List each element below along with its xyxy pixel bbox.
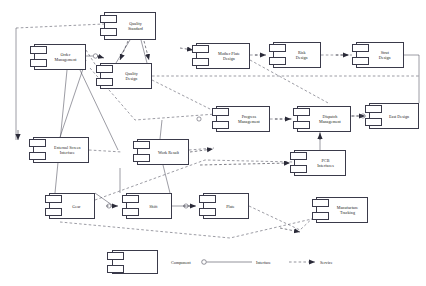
component-label: Shift [140,204,171,209]
component-tabs-icon [199,195,216,217]
component-tabs-icon [352,44,369,66]
component-tabs-icon [29,139,46,161]
component-dispatch-management[interactable]: DispatchManagement [297,106,351,132]
component-label: East Design [384,114,418,119]
component-gear[interactable]: Gear [49,193,95,219]
legend-service-label: Service [320,260,333,265]
component-tabs-icon [312,199,329,221]
component-tabs-icon [122,195,139,217]
component-tabs-icon [133,141,150,163]
component-tabs-icon [269,44,286,66]
component-tabs-icon [100,15,117,37]
component-plate[interactable]: Plate [203,193,249,219]
component-label: Mother PlateDesign [213,51,249,61]
component-tabs-icon [365,105,382,127]
component-label: RiskDesign [287,50,320,60]
component-external-screen[interactable]: External ScreenInterface [33,137,89,163]
component-label: DispatchManagement [314,114,350,124]
component-work-result[interactable]: Work Result [137,139,189,165]
component-label: QualityDesign [116,71,151,81]
component-label: Plate [217,204,248,209]
component-label: OrderManagement [50,52,85,62]
component-tabs-icon [30,46,47,68]
component-east-design[interactable]: East Design [369,103,419,129]
component-tabs-icon [212,108,229,130]
component-manufacture-tracking[interactable]: ManufactureTracking [316,197,368,223]
component-quality-design[interactable]: QualityDesign [100,63,152,89]
legend-component-tabs [107,252,124,274]
component-label: ProgressManagement [233,114,269,124]
component-tabs-icon [45,195,62,217]
component-label: Work Result [153,150,188,155]
component-mother-plate-design[interactable]: Mother PlateDesign [196,43,250,69]
component-tabs-icon [290,152,307,174]
component-progress-management[interactable]: ProgressManagement [216,106,270,132]
legend-component-label: Component [171,260,191,265]
component-label: External ScreenInterface [51,145,88,155]
component-pcb-interfaces[interactable]: PCBInterfaces [294,150,346,176]
component-label: StrutDesign [370,50,403,60]
component-diagram-canvas: Component Interface Service QualityStand… [0,0,426,286]
component-risk-design[interactable]: RiskDesign [273,42,321,68]
component-label: Gear [63,204,94,209]
component-shift[interactable]: Shift [126,193,172,219]
component-tabs-icon [293,108,310,130]
component-tabs-icon [96,65,113,87]
component-label: PCBInterfaces [310,158,345,168]
component-quality-standard[interactable]: QualityStandard [104,12,156,40]
component-label: ManufactureTracking [332,205,367,215]
component-label: QualityStandard [120,21,155,31]
component-order-management[interactable]: OrderManagement [34,44,86,70]
legend-service-symbol [289,255,349,269]
component-strut-design[interactable]: StrutDesign [356,42,404,68]
component-tabs-icon [192,45,209,67]
legend-interface-label: Interface [256,260,271,265]
